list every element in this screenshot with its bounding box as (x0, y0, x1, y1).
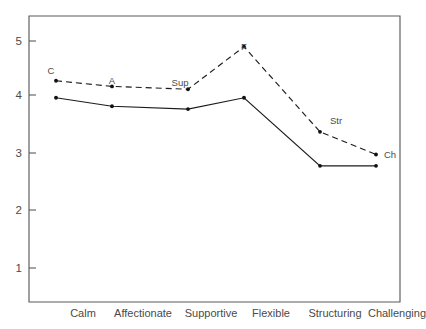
point-label-flexible: F (241, 41, 247, 52)
ytick-label-2: 2 (16, 204, 22, 216)
data-point (110, 104, 114, 108)
plot-frame (29, 16, 400, 302)
point-label-structuring: Str (330, 115, 342, 126)
point-label-calm: C (48, 65, 55, 76)
series-line-dashed (56, 47, 376, 155)
data-point (242, 96, 246, 100)
line-chart: 5 4 3 2 1 C A Sup F Str Ch Calm Affectio… (0, 0, 426, 329)
xtick-label-calm: Calm (70, 307, 96, 319)
data-point (318, 164, 322, 168)
ytick-label-5: 5 (16, 35, 22, 47)
data-point (374, 153, 378, 157)
chart-canvas: 5 4 3 2 1 C A Sup F Str Ch Calm Affectio… (0, 0, 426, 329)
xtick-label-challenging: Challenging (368, 307, 426, 319)
series-markers-solid (54, 96, 378, 168)
point-label-supportive: Sup (172, 77, 189, 88)
xtick-label-affectionate: Affectionate (114, 307, 172, 319)
point-label-affectionate: A (109, 75, 116, 86)
ytick-label-3: 3 (16, 147, 22, 159)
xtick-label-supportive: Supportive (185, 307, 238, 319)
series-line-solid (56, 98, 376, 166)
series-markers-dashed (54, 45, 378, 157)
data-point (186, 107, 190, 111)
data-point (54, 79, 58, 83)
data-point (374, 164, 378, 168)
data-point (54, 96, 58, 100)
ytick-label-4: 4 (16, 89, 23, 101)
xtick-label-flexible: Flexible (252, 307, 290, 319)
ytick-label-1: 1 (16, 262, 22, 274)
point-label-challenging: Ch (384, 149, 396, 160)
data-point (318, 130, 322, 134)
xtick-label-structuring: Structuring (308, 307, 361, 319)
